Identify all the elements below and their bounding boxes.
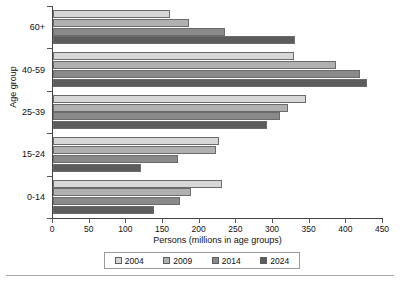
y-axis-tick	[47, 176, 52, 177]
y-axis-tick	[47, 6, 52, 7]
bar-2024-25-39	[53, 121, 267, 129]
x-axis-tick-label: 400	[338, 224, 352, 234]
bar-2024-40-59	[53, 79, 367, 87]
legend-item-2004[interactable]: 2004	[115, 256, 144, 266]
bar-2004-25-39	[53, 95, 306, 103]
bar-2004-40-59	[53, 52, 294, 60]
x-axis-tick	[199, 218, 200, 223]
y-axis-category-label: 0-14	[3, 192, 45, 202]
x-axis-tick-label: 250	[228, 224, 242, 234]
x-axis-tick-label: 300	[265, 224, 279, 234]
legend-label: 2004	[125, 256, 144, 266]
x-axis-tick-label: 0	[50, 224, 55, 234]
x-axis-tick	[309, 218, 310, 223]
y-axis-category-label: 15-24	[3, 149, 45, 159]
bar-2004-0-14	[53, 180, 222, 188]
bar-2024-15-24	[53, 164, 141, 172]
legend-item-2014[interactable]: 2014	[212, 256, 241, 266]
x-axis-line	[52, 218, 383, 219]
legend-item-2009[interactable]: 2009	[163, 256, 192, 266]
x-axis-tick	[235, 218, 236, 223]
bar-2024-0-14	[53, 206, 154, 214]
x-axis-tick-label: 350	[302, 224, 316, 234]
legend-swatch-icon	[163, 257, 170, 264]
x-axis-tick-label: 450	[375, 224, 389, 234]
x-axis-tick	[162, 218, 163, 223]
x-axis-tick-label: 100	[118, 224, 132, 234]
y-axis-tick	[47, 48, 52, 49]
x-axis-tick	[272, 218, 273, 223]
bar-2014-25-39	[53, 112, 280, 120]
x-axis-tick	[382, 218, 383, 223]
plot-area	[52, 6, 382, 218]
legend-swatch-icon	[115, 257, 122, 264]
x-axis-tick-label: 50	[84, 224, 93, 234]
bar-2014-40-59	[53, 70, 360, 78]
bar-2014-0-14	[53, 197, 180, 205]
legend-item-2024[interactable]: 2024	[260, 256, 289, 266]
legend-swatch-icon	[260, 257, 267, 264]
legend-label: 2009	[173, 256, 192, 266]
legend-label: 2024	[270, 256, 289, 266]
bar-chart: Age group 60+40-5925-3915-240-14 0501001…	[0, 0, 400, 284]
y-axis-labels: 60+40-5925-3915-240-14	[0, 0, 45, 284]
y-axis-category-label: 40-59	[3, 65, 45, 75]
x-axis-tick-label: 150	[155, 224, 169, 234]
bar-2009-25-39	[53, 104, 288, 112]
x-axis-tick	[52, 218, 53, 223]
bar-2009-60+	[53, 19, 189, 27]
x-axis-tick	[345, 218, 346, 223]
bar-2014-60+	[53, 28, 225, 36]
x-axis-tick	[125, 218, 126, 223]
bar-2009-15-24	[53, 146, 216, 154]
x-axis-title: Persons (millions in age groups)	[52, 235, 383, 245]
legend-swatch-icon	[212, 257, 219, 264]
bar-2009-40-59	[53, 61, 336, 69]
y-axis-category-label: 60+	[3, 22, 45, 32]
y-axis-category-label: 25-39	[3, 107, 45, 117]
legend-label: 2014	[222, 256, 241, 266]
page-divider-rule	[6, 275, 394, 276]
y-axis-tick	[47, 133, 52, 134]
x-axis-tick-label: 200	[192, 224, 206, 234]
chart-legend: 2004200920142024	[104, 252, 300, 269]
bar-2014-15-24	[53, 155, 178, 163]
x-axis-tick	[89, 218, 90, 223]
bar-2024-60+	[53, 36, 295, 44]
bar-2009-0-14	[53, 188, 191, 196]
bar-2004-15-24	[53, 137, 219, 145]
bar-2004-60+	[53, 10, 170, 18]
y-axis-tick	[47, 91, 52, 92]
